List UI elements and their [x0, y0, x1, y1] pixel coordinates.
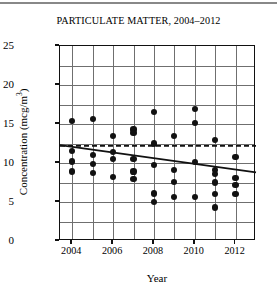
plot-area — [59, 45, 255, 240]
y-axis-label-exponent: 3 — [15, 92, 24, 96]
y-tick-label: 0 — [0, 235, 14, 246]
scatter-point — [151, 199, 157, 205]
y-tick-label: 25 — [0, 40, 14, 51]
y-tick-label: 5 — [0, 196, 14, 207]
trend-line — [60, 145, 256, 172]
scatter-point — [110, 133, 116, 139]
y-axis-label-tail: ) — [17, 88, 29, 92]
scatter-point — [151, 190, 157, 196]
scatter-point — [90, 161, 96, 167]
scatter-point — [232, 154, 238, 160]
x-axis-label: Year — [59, 272, 255, 284]
scatter-point — [212, 204, 218, 210]
x-tick-label: 2008 — [131, 246, 175, 256]
scatter-point — [212, 179, 218, 185]
y-tick-label: 10 — [0, 157, 14, 168]
x-tick-mark — [152, 240, 154, 244]
x-tick-label: 2012 — [213, 246, 257, 256]
y-axis-label-text: Concentration (mcg/m — [17, 96, 29, 195]
trend-line-layer — [60, 46, 254, 239]
y-tick-label: 15 — [0, 118, 14, 129]
y-tick-label: 20 — [0, 79, 14, 90]
scatter-point — [69, 158, 75, 164]
scatter-point — [232, 175, 238, 181]
x-tick-label: 2006 — [90, 246, 134, 256]
scatter-point — [130, 156, 136, 162]
scatter-point — [232, 182, 238, 188]
scatter-point — [232, 191, 238, 197]
x-tick-mark — [193, 240, 195, 244]
chart-figure: PARTICULATE MATTER, 2004–2012 Concentrat… — [0, 0, 277, 298]
x-tick-label: 2004 — [49, 246, 93, 256]
scatter-point — [90, 170, 96, 176]
page-top-rule — [0, 2, 277, 4]
scatter-point — [151, 140, 157, 146]
scatter-point — [130, 168, 136, 174]
scatter-point — [90, 152, 96, 158]
scatter-point — [69, 168, 75, 174]
y-axis-label: Concentration (mcg/m3) — [15, 52, 29, 232]
x-tick-mark — [234, 240, 236, 244]
x-tick-mark — [111, 240, 113, 244]
x-tick-label: 2010 — [172, 246, 216, 256]
chart-title: PARTICULATE MATTER, 2004–2012 — [0, 15, 277, 26]
x-tick-mark — [70, 240, 72, 244]
